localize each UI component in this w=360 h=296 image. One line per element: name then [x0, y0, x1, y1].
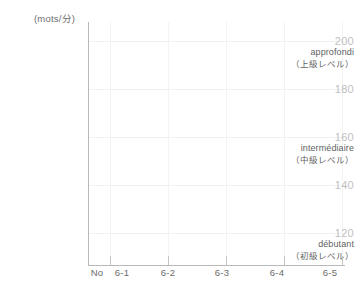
level-annotation-intermediaire: intermédiaire （中級レベル）	[272, 143, 360, 166]
level-label-fr: approfondi	[272, 47, 354, 59]
y-tick-label-120: 120	[276, 227, 360, 239]
level-label-fr: intermédiaire	[272, 143, 354, 155]
chart-container: (mots/分) 200 180 160 140 120 approfondi …	[0, 0, 360, 296]
x-axis-tick	[284, 256, 285, 265]
y-tick-label-180: 180	[276, 83, 360, 95]
level-label-ja: （上級レベル）	[272, 59, 354, 71]
y-axis-line	[88, 22, 89, 265]
x-tick-label-6-4: 6-4	[270, 267, 284, 278]
x-tick-label-6-5: 6-5	[323, 267, 337, 278]
gridline-vertical	[168, 22, 169, 265]
x-axis-tick	[110, 256, 111, 265]
x-axis-tick	[226, 256, 227, 265]
gridline-vertical	[110, 22, 111, 265]
y-axis-unit-label: (mots/分)	[34, 11, 75, 25]
gridline-vertical	[226, 22, 227, 265]
level-label-fr: débutant	[272, 239, 354, 251]
x-axis-line	[88, 265, 345, 266]
y-tick-label-140: 140	[276, 179, 360, 191]
y-tick-label-200: 200	[276, 35, 360, 47]
level-annotation-debutant: débutant （初級レベル）	[272, 239, 360, 262]
x-tick-label-6-3: 6-3	[215, 267, 229, 278]
x-axis-tick	[342, 256, 343, 265]
x-tick-label-no: No	[91, 267, 104, 278]
y-tick-label-160: 160	[276, 131, 360, 143]
x-tick-label-6-1: 6-1	[115, 267, 129, 278]
level-label-ja: （中級レベル）	[272, 155, 354, 167]
level-annotation-approfondi: approfondi （上級レベル）	[272, 47, 360, 70]
x-axis-tick	[168, 256, 169, 265]
x-tick-label-6-2: 6-2	[161, 267, 175, 278]
